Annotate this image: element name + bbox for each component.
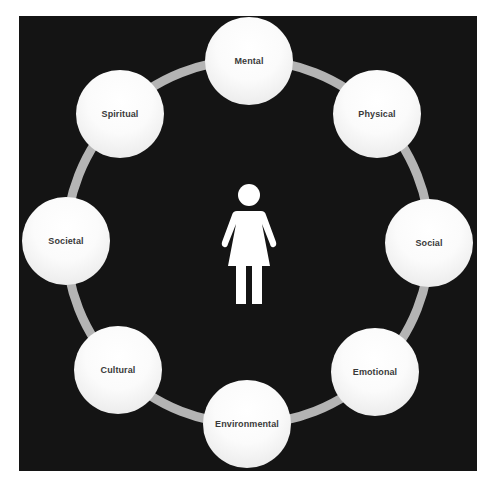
node-label: Mental bbox=[234, 56, 263, 66]
node-spiritual: Spiritual bbox=[76, 70, 164, 158]
node-label: Cultural bbox=[101, 365, 136, 375]
node-mental: Mental bbox=[205, 17, 293, 105]
node-label: Spiritual bbox=[102, 109, 139, 119]
node-cultural: Cultural bbox=[74, 326, 162, 414]
node-label: Social bbox=[415, 238, 442, 248]
node-label: Physical bbox=[358, 109, 395, 119]
node-environmental: Environmental bbox=[203, 380, 291, 468]
female-person-icon bbox=[218, 182, 280, 306]
node-societal: Societal bbox=[22, 197, 110, 285]
node-physical: Physical bbox=[333, 70, 421, 158]
node-label: Environmental bbox=[215, 419, 279, 429]
node-label: Societal bbox=[48, 236, 83, 246]
node-label: Emotional bbox=[353, 367, 397, 377]
node-social: Social bbox=[385, 199, 473, 287]
node-emotional: Emotional bbox=[331, 328, 419, 416]
